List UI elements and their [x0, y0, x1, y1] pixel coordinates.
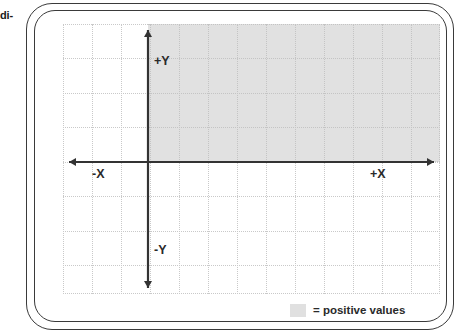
legend: = positive values	[290, 304, 405, 317]
axis-label-positive-x: +X	[370, 167, 386, 181]
gray-square-swatch-icon	[290, 304, 306, 317]
legend-label: = positive values	[313, 304, 405, 317]
margin-text-fragment: di-	[0, 9, 13, 21]
axes	[63, 24, 440, 294]
plot-area: +Y -Y -X +X	[63, 24, 440, 294]
y-axis-arrow-bottom	[144, 281, 152, 288]
y-axis-arrow-top	[144, 30, 152, 37]
axis-label-negative-y: -Y	[154, 243, 167, 257]
x-axis-arrow-left	[69, 158, 76, 166]
axis-label-positive-y: +Y	[154, 54, 170, 68]
axis-label-negative-x: -X	[92, 167, 105, 181]
figure-root: di-	[0, 0, 459, 336]
x-axis-arrow-right	[427, 158, 434, 166]
